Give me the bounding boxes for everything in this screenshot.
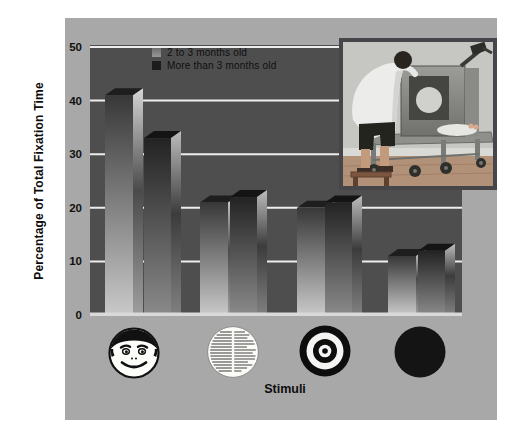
legend-swatch — [152, 61, 161, 70]
legend-swatch — [152, 48, 161, 57]
figure-screenshot: Percentage of Total Fixation Time 010203… — [0, 0, 528, 440]
legend-item: 2 to 3 months old — [152, 46, 276, 59]
y-axis-title: Percentage of Total Fixation Time — [32, 71, 46, 291]
y-tick-label: 50 — [56, 40, 82, 54]
apparatus-photo-inset — [339, 38, 497, 190]
newsprint-icon — [207, 326, 259, 382]
x-axis-title: Stimuli — [235, 382, 335, 396]
y-tick-label: 20 — [56, 201, 82, 215]
y-tick-label: 0 — [56, 308, 82, 322]
y-tick-label: 30 — [56, 147, 82, 161]
bullseye-icon — [299, 325, 351, 381]
legend-item: More than 3 months old — [152, 59, 276, 72]
legend-label: More than 3 months old — [167, 60, 276, 71]
legend-label: 2 to 3 months old — [167, 47, 247, 58]
looking-chamber-photo — [343, 42, 493, 186]
solid-black-circle-icon — [394, 326, 446, 382]
y-tick-label: 10 — [56, 254, 82, 268]
y-tick-label: 40 — [56, 94, 82, 108]
face-icon — [104, 323, 164, 387]
chart-legend: 2 to 3 months oldMore than 3 months old — [152, 46, 276, 72]
